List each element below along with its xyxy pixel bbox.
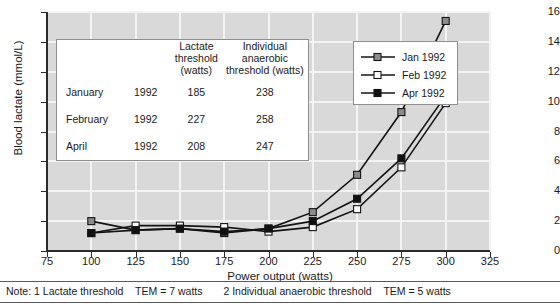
y-axis-label: Blood lactate (mmol/L) — [12, 18, 24, 178]
y-tick-mark — [41, 161, 46, 162]
data-point-marker — [265, 225, 272, 232]
figure-container: 0246810121416 75100125150175200225250275… — [0, 0, 560, 308]
x-tick-mark — [313, 252, 314, 257]
y-tick-mark — [41, 42, 46, 43]
data-point-marker — [354, 195, 361, 202]
data-point-marker — [442, 17, 449, 24]
table-cell-lactate-threshold: 227 — [171, 106, 222, 133]
note-item1-label: Lactate threshold — [43, 285, 124, 297]
data-point-marker — [398, 109, 405, 116]
y-tick-label: 0 — [520, 245, 560, 256]
legend: Jan 1992Feb 1992Apr 1992 — [353, 41, 458, 105]
table-cell-individual-anaerobic-threshold: 238 — [222, 79, 308, 106]
data-point-marker — [398, 155, 405, 162]
note-block: Note: 1 Lactate threshold TEM = 7 watts … — [0, 281, 560, 303]
table-row: April1992208247 — [57, 133, 308, 160]
y-axis-line — [46, 12, 48, 252]
y-tick-mark — [41, 221, 46, 222]
table-cell-individual-anaerobic-threshold: 247 — [222, 133, 308, 160]
x-tick-mark — [490, 252, 491, 257]
x-tick-label: 100 — [66, 256, 116, 267]
note-item2-number: 2 — [223, 285, 229, 297]
table-cell-year: 1992 — [131, 79, 171, 106]
table-cell-lactate-threshold: 185 — [171, 79, 222, 106]
inset-threshold-table: Lactate threshold (watts) Individual ana… — [56, 39, 309, 161]
threshold-table-body: January1992185238February1992227258April… — [57, 79, 308, 160]
x-tick-label: 150 — [155, 256, 205, 267]
legend-label: Feb 1992 — [402, 69, 446, 81]
table-cell-year: 1992 — [131, 133, 171, 160]
legend-marker-icon — [360, 69, 396, 81]
y-tick-label: 4 — [520, 185, 560, 196]
y-tick-label: 2 — [520, 215, 560, 226]
table-cell-month: January — [57, 79, 131, 106]
x-tick-mark — [446, 252, 447, 257]
y-tick-label: 6 — [520, 155, 560, 166]
data-point-marker — [309, 218, 316, 225]
header-iat-line1: Individual — [243, 40, 287, 52]
header-lt-line2: threshold — [175, 52, 218, 64]
x-tick-mark — [357, 252, 358, 257]
x-tick-label: 200 — [244, 256, 294, 267]
x-tick-mark — [401, 252, 402, 257]
note-item1-number: 1 — [34, 285, 40, 297]
x-tick-mark — [180, 252, 181, 257]
table-row: February1992227258 — [57, 106, 308, 133]
header-lt-line1: Lactate — [179, 40, 213, 52]
y-tick-label: 12 — [520, 66, 560, 77]
table-row: January1992185238 — [57, 79, 308, 106]
header-lactate-threshold: Lactate threshold (watts) — [171, 40, 222, 79]
y-tick-mark — [41, 72, 46, 73]
x-tick-label: 225 — [288, 256, 338, 267]
data-point-marker — [88, 218, 95, 225]
table-cell-lactate-threshold: 208 — [171, 133, 222, 160]
x-tick-label: 275 — [376, 256, 426, 267]
note-item2-tem: TEM = 5 watts — [383, 285, 450, 297]
legend-label: Jan 1992 — [402, 51, 445, 63]
x-tick-mark — [136, 252, 137, 257]
header-iat-line3: threshold (watts) — [226, 64, 304, 76]
y-tick-mark — [41, 251, 46, 252]
legend-label: Apr 1992 — [402, 87, 445, 99]
y-tick-mark — [41, 132, 46, 133]
table-cell-month: April — [57, 133, 131, 160]
note-prefix: Note: — [6, 285, 31, 297]
x-tick-mark — [47, 252, 48, 257]
x-tick-label: 125 — [111, 256, 161, 267]
x-tick-mark — [269, 252, 270, 257]
table-cell-month: February — [57, 106, 131, 133]
note-item2-label: Individual anaerobic threshold — [232, 285, 372, 297]
x-tick-mark — [224, 252, 225, 257]
note-text: Note: 1 Lactate threshold TEM = 7 watts … — [0, 282, 560, 302]
y-tick-label: 16 — [520, 6, 560, 17]
header-blank — [57, 40, 171, 79]
legend-item: Apr 1992 — [360, 84, 457, 102]
x-tick-label: 175 — [199, 256, 249, 267]
x-tick-label: 300 — [421, 256, 471, 267]
table-header-row: Lactate threshold (watts) Individual ana… — [57, 40, 308, 79]
x-tick-label: 250 — [332, 256, 382, 267]
table-cell-year: 1992 — [131, 106, 171, 133]
y-tick-label: 8 — [520, 126, 560, 137]
note-bottom-rule — [0, 302, 560, 303]
x-tick-label: 325 — [465, 256, 515, 267]
x-tick-label: 75 — [22, 256, 72, 267]
table-cell-individual-anaerobic-threshold: 258 — [222, 106, 308, 133]
header-individual-anaerobic-threshold: Individual anaerobic threshold (watts) — [222, 40, 308, 79]
legend-marker-icon — [360, 51, 396, 63]
data-point-marker — [176, 225, 183, 232]
threshold-table: Lactate threshold (watts) Individual ana… — [57, 40, 308, 160]
header-iat-line2: anaerobic — [242, 52, 288, 64]
data-point-marker — [309, 209, 316, 216]
data-point-marker — [354, 206, 361, 213]
legend-marker-icon — [360, 87, 396, 99]
data-point-marker — [398, 164, 405, 171]
y-tick-label: 14 — [520, 36, 560, 47]
threshold-table-head: Lactate threshold (watts) Individual ana… — [57, 40, 308, 79]
y-tick-mark — [41, 191, 46, 192]
x-tick-mark — [91, 252, 92, 257]
legend-item: Jan 1992 — [360, 48, 457, 66]
chart-area: 0246810121416 75100125150175200225250275… — [0, 0, 560, 265]
data-point-marker — [132, 227, 139, 234]
y-tick-mark — [41, 12, 46, 13]
